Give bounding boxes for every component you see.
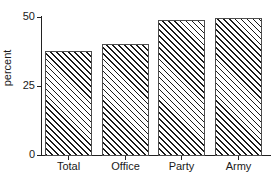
y-tick-label-0: 0: [0, 149, 35, 160]
y-tick-mark-25: [37, 86, 42, 87]
x-tick-label-party: Party: [153, 160, 210, 173]
bar-chart: percent 50 25 0 Total Office Party Army: [0, 0, 275, 179]
y-tick-mark-0: [37, 155, 42, 156]
bar-army: [215, 18, 262, 156]
bar-total: [45, 51, 92, 156]
x-tick-label-office: Office: [97, 160, 154, 173]
y-axis-title: percent: [1, 28, 13, 108]
x-tick-label-total: Total: [40, 160, 97, 173]
bar-party: [158, 20, 205, 156]
y-tick-label-25: 25: [0, 80, 35, 91]
y-tick-label-50: 50: [0, 11, 35, 22]
x-tick-label-army: Army: [210, 160, 267, 173]
y-tick-mark-50: [37, 17, 42, 18]
bar-office: [102, 44, 149, 156]
